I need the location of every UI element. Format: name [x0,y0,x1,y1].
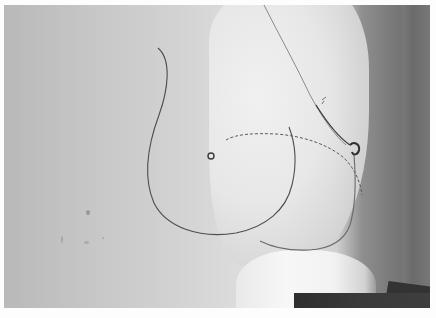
small-tick-mark [322,97,326,104]
drawn-lines [4,5,430,308]
profile-edge [264,5,346,145]
profile-edge-dark [316,105,350,145]
nipple-shape [350,143,359,154]
lower-contour [260,155,355,250]
photograph [4,5,430,308]
image-canvas [0,0,436,318]
center-mark [208,153,214,159]
wall-speck [86,210,90,215]
wall-speck [61,236,63,243]
wall-speck [102,237,104,239]
wall-speck [84,241,89,244]
outline-curve [148,48,295,235]
